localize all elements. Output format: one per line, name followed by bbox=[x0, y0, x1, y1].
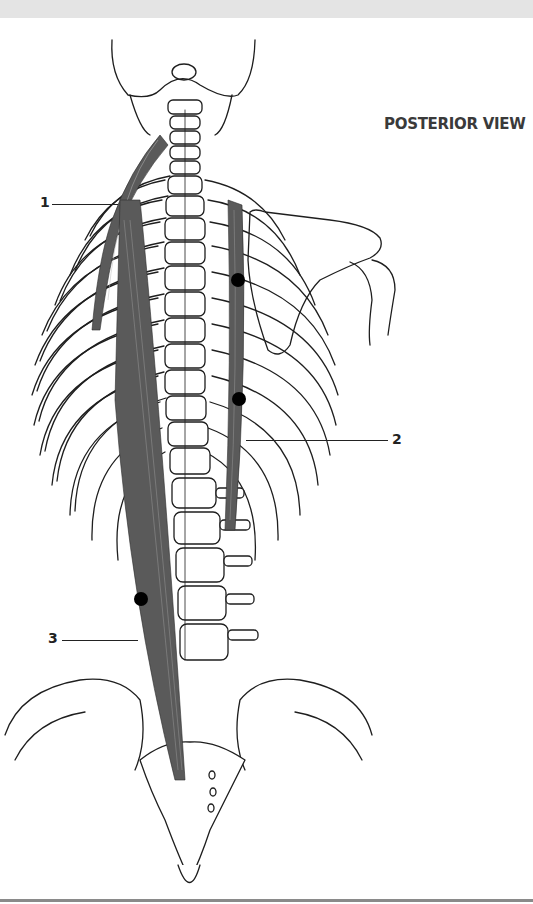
label-2: 2 bbox=[392, 431, 402, 447]
leader-line-2 bbox=[246, 440, 388, 441]
leader-line-3 bbox=[62, 640, 138, 641]
sacrum bbox=[140, 742, 245, 883]
label-3: 3 bbox=[48, 630, 58, 646]
bottom-rule bbox=[0, 899, 533, 902]
leader-line-1 bbox=[52, 204, 118, 205]
right-scapula-humerus bbox=[248, 210, 395, 354]
marker-dot bbox=[231, 273, 245, 287]
anatomy-illustration bbox=[0, 0, 533, 904]
marker-dot bbox=[232, 392, 246, 406]
rib-cage-right bbox=[205, 180, 338, 560]
label-1: 1 bbox=[40, 194, 50, 210]
vertebral-column bbox=[165, 100, 258, 660]
marker-dot bbox=[134, 592, 148, 606]
view-title: POSTERIOR VIEW bbox=[384, 115, 525, 133]
